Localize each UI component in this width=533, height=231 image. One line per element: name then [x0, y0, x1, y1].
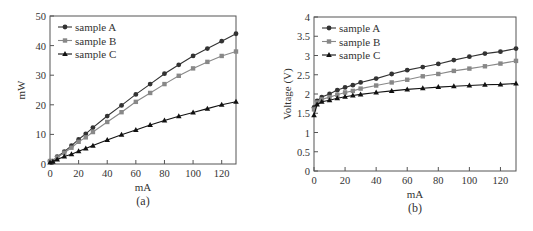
- data-point: [162, 82, 166, 86]
- legend-label: sample C: [75, 48, 116, 60]
- data-point: [420, 65, 425, 70]
- data-point: [421, 74, 425, 78]
- data-point: [513, 81, 519, 86]
- series-line: [50, 52, 236, 162]
- x-tick-label: 100: [185, 168, 201, 179]
- legend-marker-icon: [327, 26, 332, 31]
- data-point: [374, 76, 379, 81]
- legend-item: sample B: [322, 36, 380, 48]
- y-tick-label: 2.5: [297, 70, 310, 81]
- data-point: [119, 110, 123, 114]
- x-tick-label: 0: [311, 175, 316, 186]
- legend-item: sample A: [322, 22, 380, 34]
- x-tick-label: 60: [131, 168, 142, 179]
- series-line: [50, 102, 236, 163]
- data-point: [105, 120, 109, 124]
- x-tick-label: 40: [371, 175, 382, 186]
- data-point: [91, 125, 96, 130]
- data-point: [219, 54, 223, 58]
- data-point: [133, 92, 138, 97]
- legend-label: sample B: [339, 36, 380, 48]
- data-point: [498, 61, 502, 65]
- data-point: [483, 51, 488, 56]
- y-tick-label: 4: [305, 12, 311, 23]
- y-tick-label: 30: [36, 70, 47, 81]
- x-tick-label: 120: [214, 168, 230, 179]
- chart-panel-a: 02040608010012001020304050mAmW(a)sample …: [15, 11, 239, 208]
- legend-label: sample C: [339, 49, 380, 61]
- x-axis-label: mA: [407, 188, 424, 200]
- data-point: [358, 80, 363, 85]
- legend-marker-icon: [63, 25, 68, 30]
- legend-label: sample B: [75, 35, 116, 47]
- x-tick-label: 60: [402, 175, 413, 186]
- data-point: [105, 114, 110, 119]
- data-point: [191, 54, 196, 59]
- data-point: [389, 80, 393, 84]
- data-point: [69, 146, 73, 150]
- data-point: [205, 46, 210, 51]
- y-tick-label: 3.5: [297, 31, 310, 42]
- y-tick-label: 0.5: [297, 147, 310, 158]
- data-point: [219, 39, 224, 44]
- x-tick-label: 0: [47, 168, 52, 179]
- data-point: [234, 31, 239, 36]
- data-point: [389, 72, 394, 77]
- data-point: [76, 140, 80, 144]
- data-point: [436, 62, 441, 67]
- data-point: [514, 46, 519, 51]
- panel-caption: (a): [136, 194, 149, 208]
- y-tick-label: 0: [41, 159, 46, 170]
- data-point: [162, 71, 167, 76]
- y-axis-label: Voltage (V): [281, 68, 294, 120]
- chart-figure: 02040608010012001020304050mAmW(a)sample …: [0, 0, 533, 231]
- data-point: [483, 64, 487, 68]
- legend-item: sample C: [58, 48, 116, 60]
- legend-label: sample A: [339, 22, 380, 34]
- data-point: [514, 59, 518, 63]
- data-point: [91, 130, 95, 134]
- x-axis-label: mA: [135, 181, 152, 193]
- data-point: [351, 89, 355, 93]
- legend-label: sample A: [75, 21, 116, 33]
- data-point: [467, 66, 471, 70]
- y-tick-label: 20: [36, 100, 47, 111]
- data-point: [498, 49, 503, 54]
- data-point: [177, 74, 181, 78]
- y-tick-label: 50: [36, 11, 47, 22]
- legend-marker-icon: [63, 38, 67, 42]
- data-point: [467, 54, 472, 59]
- legend-item: sample C: [322, 49, 380, 61]
- data-point: [233, 99, 239, 104]
- y-tick-label: 40: [36, 41, 47, 52]
- data-point: [84, 135, 88, 139]
- series-sample-c: [47, 99, 239, 165]
- data-point: [205, 60, 209, 64]
- legend-marker-icon: [327, 39, 331, 43]
- data-point: [134, 100, 138, 104]
- y-tick-label: 10: [36, 129, 47, 140]
- series-sample-c: [311, 81, 519, 118]
- data-point: [452, 69, 456, 73]
- x-tick-label: 120: [493, 175, 509, 186]
- legend-item: sample A: [58, 21, 116, 33]
- data-point: [451, 58, 456, 63]
- x-tick-label: 20: [73, 168, 84, 179]
- panel-caption: (b): [408, 201, 422, 215]
- data-point: [358, 86, 362, 90]
- y-tick-label: 0: [305, 166, 310, 177]
- data-point: [436, 72, 440, 76]
- x-tick-label: 80: [433, 175, 444, 186]
- legend-item: sample B: [58, 35, 116, 47]
- data-point: [119, 103, 124, 108]
- data-point: [405, 78, 409, 82]
- data-point: [148, 91, 152, 95]
- data-point: [405, 68, 410, 73]
- data-point: [176, 62, 181, 67]
- data-point: [374, 83, 378, 87]
- data-point: [350, 83, 355, 88]
- x-tick-label: 100: [462, 175, 478, 186]
- y-tick-label: 1: [305, 128, 310, 139]
- data-point: [191, 66, 195, 70]
- y-tick-label: 2: [305, 89, 310, 100]
